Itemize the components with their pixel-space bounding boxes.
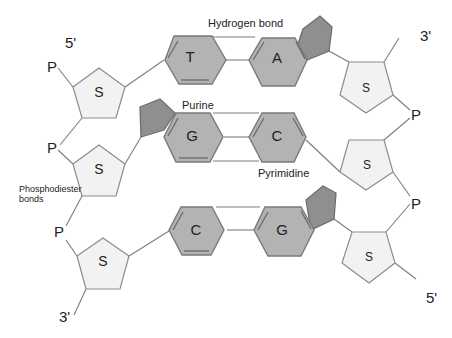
svg-text:A: A [272,49,282,66]
phosphodiester-label-line2: bonds [19,194,44,204]
svg-text:T: T [185,48,194,65]
base-a: A [249,38,307,86]
hydrogen-bond-label: Hydrogen bond [208,17,283,29]
svg-text:C: C [272,127,283,144]
svg-text:C: C [191,221,202,238]
base-c-bottom: C [169,207,224,255]
dna-structure-diagram: S S S S S S T A [0,0,452,338]
left-sugar-1: S [73,68,125,118]
base-g-middle: G [164,113,223,162]
purine-label: Purine [182,99,214,111]
svg-text:S: S [94,84,103,100]
phosphate-right-1: P [411,106,421,123]
end-label-right-bottom: 5' [426,289,437,306]
right-sugar-1: S [340,62,393,113]
svg-text:S: S [98,253,107,269]
svg-text:S: S [365,250,373,264]
phosphate-left-1: P [47,58,57,75]
right-sugar-3: S [342,232,395,283]
base-c-middle: C [249,113,306,162]
phosphodiester-label-line1: Phosphodiester [19,184,82,194]
end-label-left-top: 5' [65,34,76,51]
left-sugar-3: S [77,238,129,289]
right-sugar-2: S [340,140,393,190]
svg-text:S: S [94,161,103,177]
phosphate-left-3: P [54,223,64,240]
svg-text:S: S [362,81,370,95]
phosphate-left-2: P [47,139,57,156]
base-t: T [165,36,226,84]
end-label-left-bottom: 3' [59,308,70,325]
base-g-bottom: G [254,207,314,256]
end-label-right-top: 3' [420,27,431,44]
svg-text:S: S [363,158,371,172]
svg-text:G: G [276,221,288,238]
pyrimidine-label: Pyrimidine [258,167,309,179]
svg-text:G: G [186,127,198,144]
phosphate-right-2: P [411,195,421,212]
